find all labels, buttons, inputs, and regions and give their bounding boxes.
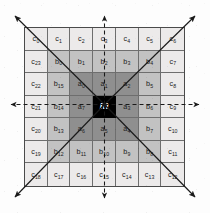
cell-label: b5 — [146, 80, 153, 87]
cell-label: b7 — [146, 125, 153, 132]
cell-label-subscript: 1 — [59, 37, 62, 43]
cell-label: b11 — [77, 148, 86, 155]
cell-label: c4 — [123, 35, 129, 42]
cell-label: b9 — [123, 148, 130, 155]
cell-a7: a7 — [70, 96, 93, 119]
cell-b15: b15 — [48, 73, 71, 96]
cell-label: b2 — [101, 57, 108, 64]
cell-label: c6 — [169, 35, 175, 42]
cell-label-subscript: 14 — [58, 105, 64, 111]
cell-label: c20 — [31, 125, 40, 132]
cell-label: c11 — [168, 148, 177, 155]
cell-b11: b11 — [70, 141, 93, 164]
cell-label-subscript: 0 — [36, 37, 39, 43]
cell-label-subscript: 5 — [105, 128, 108, 134]
cell-label-subscript: 12 — [172, 173, 178, 179]
cell-c13: c13 — [139, 163, 162, 186]
cell-label: c5 — [146, 35, 152, 42]
cell-label: b12 — [54, 148, 64, 155]
cell-a4: a4 — [116, 118, 139, 141]
cell-label-subscript: 0 — [82, 83, 85, 89]
cell-label: c9 — [169, 103, 175, 110]
cell-c11: c11 — [161, 141, 184, 164]
cell-c1: c1 — [48, 28, 71, 51]
cell-label-subscript: 3 — [127, 105, 130, 111]
cell-label: b6 — [146, 103, 153, 110]
cell-c21: c21 — [25, 96, 48, 119]
cell-label: b8 — [146, 148, 153, 155]
cell-c20: c20 — [25, 118, 48, 141]
cell-label-subscript: 22 — [35, 83, 41, 89]
cell-label-subscript: 3 — [105, 37, 108, 43]
cell-label-subscript: 2 — [127, 83, 130, 89]
cell-label-subscript: 7 — [150, 128, 153, 134]
cell-b6: b6 — [139, 96, 162, 119]
cell-label-subscript: 20 — [35, 128, 41, 134]
cell-label: c19 — [31, 148, 40, 155]
cell-label-subscript: 4 — [150, 60, 153, 66]
cell-label-subscript: 6 — [82, 128, 85, 134]
cell-c7: c7 — [161, 51, 184, 74]
cell-b1: b1 — [70, 51, 93, 74]
cell-label: c17 — [54, 171, 63, 178]
cell-b10: b10 — [93, 141, 116, 164]
cell-c15: c15 — [93, 163, 116, 186]
cell-label: b10 — [99, 148, 109, 155]
cell-label: c8 — [169, 80, 175, 87]
cell-b0: b0 — [48, 51, 71, 74]
cell-label: m — [100, 101, 108, 111]
cell-b3: b3 — [116, 51, 139, 74]
cell-label-subscript: 8 — [173, 83, 176, 89]
cell-label-subscript: 9 — [127, 150, 130, 156]
cell-label: b4 — [146, 57, 153, 64]
cell-c9: c9 — [161, 96, 184, 119]
cell-c6: c6 — [161, 28, 184, 51]
neighborhood-grid: c0c1c2c3c4c5c6c23b0b1b2b3b4c7c22b15a0a1a… — [24, 27, 185, 187]
cell-c12: c12 — [161, 163, 184, 186]
cell-label-subscript: 1 — [105, 83, 108, 89]
figure-canvas: c0c1c2c3c4c5c6c23b0b1b2b3b4c7c22b15a0a1a… — [0, 0, 210, 213]
cell-label-subscript: 10 — [103, 150, 109, 156]
cell-label-subscript: 4 — [127, 37, 130, 43]
cell-c4: c4 — [116, 28, 139, 51]
cell-label-subscript: 2 — [105, 60, 108, 66]
cell-label: c10 — [168, 125, 177, 132]
cell-label-subscript: 10 — [172, 128, 178, 134]
cell-c2: c2 — [70, 28, 93, 51]
cell-c16: c16 — [70, 163, 93, 186]
cell-label: a6 — [78, 125, 85, 132]
cell-b14: b14 — [48, 96, 71, 119]
cell-label: c18 — [31, 171, 40, 178]
cell-label-subscript: 15 — [58, 83, 64, 89]
cell-label-subscript: 0 — [59, 60, 62, 66]
cell-label-subscript: 17 — [58, 173, 64, 179]
cell-label: b15 — [54, 80, 64, 87]
cell-label-subscript: 13 — [58, 128, 64, 134]
cell-label: c14 — [122, 171, 131, 178]
cell-label: a4 — [123, 125, 130, 132]
cell-label: c23 — [31, 57, 40, 64]
cell-c23: c23 — [25, 51, 48, 74]
cell-label: c22 — [31, 80, 40, 87]
cell-label: b0 — [55, 57, 62, 64]
cell-label: c1 — [55, 35, 61, 42]
cell-label-subscript: 7 — [173, 60, 176, 66]
cell-a6: a6 — [70, 118, 93, 141]
cell-label-subscript: 11 — [172, 150, 177, 156]
cell-c22: c22 — [25, 73, 48, 96]
cell-label: c12 — [168, 171, 177, 178]
cell-c3: c3 — [93, 28, 116, 51]
cell-b8: b8 — [139, 141, 162, 164]
cell-label-subscript: 11 — [81, 150, 86, 156]
cell-label-subscript: 21 — [35, 105, 41, 111]
cell-b4: b4 — [139, 51, 162, 74]
cell-label-subscript: 8 — [150, 150, 153, 156]
cell-label-subscript: 12 — [58, 150, 64, 156]
cell-label-subscript: 19 — [35, 150, 41, 156]
cell-label-subscript: 9 — [173, 105, 176, 111]
cell-label-subscript: 18 — [35, 173, 41, 179]
cell-c8: c8 — [161, 73, 184, 96]
cell-label: b14 — [54, 103, 64, 110]
cell-label: a2 — [123, 80, 130, 87]
cell-label: b3 — [123, 57, 130, 64]
